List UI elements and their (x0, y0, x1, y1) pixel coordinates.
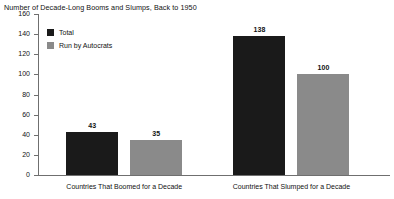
legend-label: Run by Autocrats (59, 41, 112, 50)
bar[interactable]: 138 (233, 36, 285, 175)
y-axis-tick-label: 40 (22, 130, 30, 139)
x-axis-category-label: Countries That Boomed for a Decade (66, 182, 182, 191)
bar[interactable]: 43 (66, 132, 118, 175)
bar-chart: Number of Decade-Long Booms and Slumps, … (0, 0, 394, 199)
y-axis-tick-label: 160 (18, 9, 30, 18)
legend-item[interactable]: Run by Autocrats (47, 40, 112, 51)
bar-value-label: 43 (88, 121, 96, 130)
bar-value-label: 138 (254, 25, 266, 34)
y-axis-tick-label: 60 (22, 110, 30, 119)
y-axis-tick-mark (34, 34, 38, 35)
y-axis-tick-mark (34, 155, 38, 156)
y-axis-tick-mark (34, 135, 38, 136)
y-axis-tick-label: 140 (18, 29, 30, 38)
y-axis-tick-mark (34, 54, 38, 55)
y-axis-tick-mark (34, 175, 38, 176)
y-axis-tick-label: 100 (18, 69, 30, 78)
legend-swatch-icon (47, 29, 54, 36)
chart-legend: TotalRun by Autocrats (47, 27, 112, 53)
y-axis-tick-label: 80 (22, 90, 30, 99)
y-axis-line (38, 14, 39, 176)
bar[interactable]: 100 (297, 74, 349, 175)
legend-swatch-icon (47, 42, 54, 49)
y-axis-tick-mark (34, 14, 38, 15)
x-axis-line (38, 175, 390, 176)
y-axis-tick-mark (34, 95, 38, 96)
legend-item[interactable]: Total (47, 27, 112, 38)
bar-value-label: 100 (318, 63, 330, 72)
x-axis-category-label: Countries That Slumped for a Decade (233, 182, 350, 191)
bar[interactable]: 35 (130, 140, 182, 175)
legend-label: Total (59, 28, 74, 37)
y-axis-tick-label: 120 (18, 49, 30, 58)
chart-title: Number of Decade-Long Booms and Slumps, … (4, 3, 197, 12)
y-axis-tick-mark (34, 115, 38, 116)
y-axis-tick-mark (34, 74, 38, 75)
y-axis-tick-label: 20 (22, 150, 30, 159)
bar-value-label: 35 (152, 129, 160, 138)
y-axis-tick-label: 0 (26, 170, 30, 179)
